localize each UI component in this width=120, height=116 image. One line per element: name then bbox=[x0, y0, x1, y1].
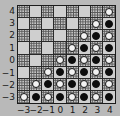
open-circle-marker bbox=[80, 56, 88, 64]
filled-circle-marker bbox=[32, 93, 40, 101]
y-tick-label: 1 bbox=[9, 44, 15, 53]
lattice-cell bbox=[42, 18, 54, 30]
lattice-cell bbox=[30, 42, 42, 54]
x-tick-label: 0 bbox=[54, 106, 66, 115]
lattice-cell bbox=[67, 55, 79, 67]
lattice-cell bbox=[54, 6, 66, 18]
lattice-cell bbox=[54, 67, 66, 79]
open-circle-marker bbox=[92, 93, 100, 101]
lattice-cell bbox=[91, 55, 103, 67]
x-tick-label: −2 bbox=[29, 106, 41, 115]
filled-circle-marker bbox=[56, 68, 64, 76]
lattice-cell bbox=[103, 6, 115, 18]
lattice-cell bbox=[67, 91, 79, 103]
lattice-cell bbox=[54, 91, 66, 103]
lattice-cell bbox=[79, 55, 91, 67]
lattice-cell bbox=[54, 79, 66, 91]
lattice-cell bbox=[79, 18, 91, 30]
lattice-cell bbox=[103, 18, 115, 30]
lattice-cell bbox=[91, 42, 103, 54]
lattice-cell bbox=[79, 30, 91, 42]
lattice-cell bbox=[67, 42, 79, 54]
filled-circle-marker bbox=[68, 80, 76, 88]
open-circle-marker bbox=[105, 32, 113, 40]
open-circle-marker bbox=[92, 44, 100, 52]
x-tick-label: 2 bbox=[79, 106, 91, 115]
open-circle-marker bbox=[105, 80, 113, 88]
lattice-cell bbox=[42, 6, 54, 18]
open-circle-marker bbox=[80, 32, 88, 40]
filled-circle-marker bbox=[105, 20, 113, 28]
lattice-cell bbox=[79, 79, 91, 91]
lattice-cell bbox=[54, 18, 66, 30]
lattice-cell bbox=[42, 91, 54, 103]
lattice-cell bbox=[18, 6, 30, 18]
y-tick-label: −3 bbox=[2, 93, 15, 102]
lattice-cell bbox=[18, 79, 30, 91]
lattice-cell bbox=[79, 91, 91, 103]
lattice-cell bbox=[103, 30, 115, 42]
filled-circle-marker bbox=[92, 80, 100, 88]
lattice-cell bbox=[18, 91, 30, 103]
open-circle-marker bbox=[56, 56, 64, 64]
lattice-cell bbox=[42, 79, 54, 91]
lattice-cell bbox=[54, 42, 66, 54]
lattice-cell-grid bbox=[18, 6, 115, 103]
x-tick-label: 3 bbox=[91, 106, 103, 115]
lattice-cell bbox=[67, 67, 79, 79]
lattice-cell bbox=[91, 67, 103, 79]
open-circle-marker bbox=[105, 56, 113, 64]
open-circle-marker bbox=[68, 68, 76, 76]
open-circle-marker bbox=[44, 68, 52, 76]
x-tick-label: 4 bbox=[104, 106, 116, 115]
filled-circle-marker bbox=[56, 93, 64, 101]
filled-circle-marker bbox=[80, 68, 88, 76]
open-circle-marker bbox=[68, 44, 76, 52]
lattice-cell bbox=[18, 67, 30, 79]
filled-circle-marker bbox=[105, 68, 113, 76]
lattice-cell bbox=[103, 67, 115, 79]
lattice-cell bbox=[30, 91, 42, 103]
lattice-cell bbox=[103, 42, 115, 54]
x-tick-label: 1 bbox=[67, 106, 79, 115]
lattice-cell bbox=[42, 30, 54, 42]
open-circle-marker bbox=[92, 68, 100, 76]
y-tick-label: −1 bbox=[2, 69, 15, 78]
lattice-cell bbox=[18, 30, 30, 42]
lattice-cell bbox=[91, 30, 103, 42]
x-tick-label: −3 bbox=[17, 106, 29, 115]
y-tick-label: 2 bbox=[9, 31, 15, 40]
open-circle-marker bbox=[92, 20, 100, 28]
open-circle-marker bbox=[80, 80, 88, 88]
lattice-cell bbox=[67, 6, 79, 18]
lattice-cell bbox=[91, 6, 103, 18]
chart-figure: 43210−1−2−3 −3−2−101234 bbox=[0, 0, 120, 116]
filled-circle-marker bbox=[92, 56, 100, 64]
open-circle-marker bbox=[20, 93, 28, 101]
lattice-cell bbox=[30, 6, 42, 18]
open-circle-marker bbox=[56, 80, 64, 88]
open-circle-marker bbox=[105, 8, 113, 16]
open-circle-marker bbox=[44, 93, 52, 101]
lattice-cell bbox=[91, 91, 103, 103]
lattice-cell bbox=[18, 55, 30, 67]
lattice-cell bbox=[30, 30, 42, 42]
lattice-cell bbox=[30, 79, 42, 91]
lattice-cell bbox=[67, 30, 79, 42]
lattice-cell bbox=[91, 79, 103, 91]
open-circle-marker bbox=[68, 93, 76, 101]
filled-circle-marker bbox=[92, 32, 100, 40]
lattice-cell bbox=[18, 42, 30, 54]
lattice-cell bbox=[30, 67, 42, 79]
lattice-cell bbox=[103, 91, 115, 103]
open-circle-marker bbox=[32, 80, 40, 88]
lattice-cell bbox=[42, 67, 54, 79]
x-tick-label: −1 bbox=[42, 106, 54, 115]
filled-circle-marker bbox=[80, 44, 88, 52]
lattice-cell bbox=[67, 18, 79, 30]
filled-circle-marker bbox=[80, 93, 88, 101]
lattice-cell bbox=[18, 18, 30, 30]
lattice-cell bbox=[79, 42, 91, 54]
lattice-cell bbox=[54, 55, 66, 67]
lattice-cell bbox=[67, 79, 79, 91]
